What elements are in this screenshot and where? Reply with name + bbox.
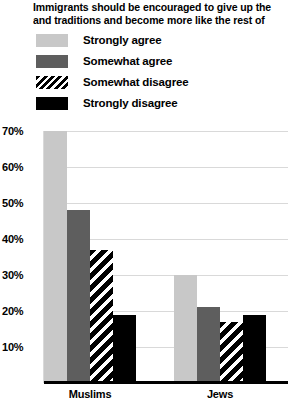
chart-title-line-2: and traditions and become more like the … [33,14,300,27]
y-axis-tick-label: 70% [2,125,40,137]
bar-jews-somewhat-agree[interactable] [197,307,220,383]
legend-label-somewhat-agree: Somewhat agree [83,55,172,67]
y-axis-tick-label: 30% [2,269,40,281]
x-axis-category-label-jews: Jews [174,388,266,400]
bar-muslims-strongly-agree[interactable] [44,131,67,383]
bar-group-jews [174,131,266,383]
legend-item-strongly-disagree: Strongly disagree [36,93,286,113]
legend-swatch-icon-somewhat-agree [36,55,68,68]
bar-muslims-somewhat-agree[interactable] [67,210,90,383]
y-axis-tick-label: 60% [2,161,40,173]
plot-area [44,131,288,383]
bar-jews-strongly-agree[interactable] [174,275,197,383]
legend-label-somewhat-disagree: Somewhat disagree [83,76,188,88]
legend-item-strongly-agree: Strongly agree [36,30,286,50]
x-axis-category-label-muslims: Muslims [44,388,136,400]
bar-muslims-somewhat-disagree[interactable] [90,250,113,383]
bar-group-muslims [44,131,136,383]
bar-jews-somewhat-disagree[interactable] [220,322,243,383]
chart-title-line-1: Immigrants should be encouraged to give … [33,1,300,14]
y-axis-tick-label: 10% [2,341,40,353]
y-axis-tick-label: 40% [2,233,40,245]
x-axis-line [44,381,288,384]
legend-label-strongly-disagree: Strongly disagree [83,97,178,109]
legend-swatch-icon-strongly-disagree [36,97,68,110]
chart-title: Immigrants should be encouraged to give … [33,1,300,27]
bar-muslims-strongly-disagree[interactable] [113,315,136,383]
chart-legend: Strongly agree Somewhat agree Somewhat d… [36,30,286,114]
bar-jews-strongly-disagree[interactable] [243,315,266,383]
legend-swatch-icon-somewhat-disagree [36,76,68,89]
y-axis-tick-label: 50% [2,197,40,209]
legend-swatch-icon-strongly-agree [36,34,68,47]
y-axis-tick-label: 20% [2,305,40,317]
legend-item-somewhat-disagree: Somewhat disagree [36,72,286,92]
legend-label-strongly-agree: Strongly agree [83,34,161,46]
legend-item-somewhat-agree: Somewhat agree [36,51,286,71]
